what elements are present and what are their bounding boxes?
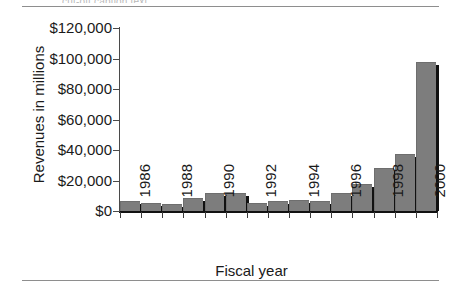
y-axis-tick	[113, 211, 120, 212]
x-axis-tick-label-1986: 1986	[137, 164, 152, 220]
x-axis-tick-label-2000: 2000	[432, 164, 447, 220]
y-axis-tick-label: $20,000	[12, 173, 112, 188]
x-axis-tick	[416, 212, 417, 218]
x-axis-tick-label-1990: 1990	[221, 164, 236, 220]
y-axis-title: Revenues in millions	[30, 15, 47, 215]
y-axis-tick-label: $80,000	[12, 81, 112, 96]
y-axis-tick	[113, 59, 120, 60]
y-axis-tick	[113, 89, 120, 90]
y-axis-tick-label: $40,000	[12, 142, 112, 157]
x-axis-tick-label-1998: 1998	[390, 164, 405, 220]
x-axis-tick	[205, 212, 206, 218]
x-axis-tick-label-1996: 1996	[348, 164, 363, 220]
y-axis-tick	[113, 120, 120, 121]
x-axis-tick	[289, 212, 290, 218]
x-axis-tick	[162, 212, 163, 218]
y-axis-tick-label: $60,000	[12, 112, 112, 127]
chart-figure: cut-off caption text $0$20,000$40,000$60…	[0, 0, 453, 297]
x-axis-tick	[331, 212, 332, 218]
x-axis-tick-label-1992: 1992	[263, 164, 278, 220]
y-axis-tick-label: $120,000	[12, 20, 112, 35]
x-axis-tick-label-1988: 1988	[179, 164, 194, 220]
y-axis-tick	[113, 150, 120, 151]
x-axis-tick	[374, 212, 375, 218]
y-axis-tick-label: $0	[12, 203, 112, 218]
x-axis-title: Fiscal year	[0, 262, 453, 279]
x-axis-tick-label-1994: 1994	[306, 164, 321, 220]
y-axis-tick-labels: $0$20,000$40,000$60,000$80,000$100,000$1…	[8, 0, 112, 297]
y-axis-tick-label: $100,000	[12, 51, 112, 66]
y-axis-tick	[113, 28, 120, 29]
x-axis-tick	[247, 212, 248, 218]
y-axis-tick	[113, 181, 120, 182]
x-axis-tick	[120, 212, 121, 218]
